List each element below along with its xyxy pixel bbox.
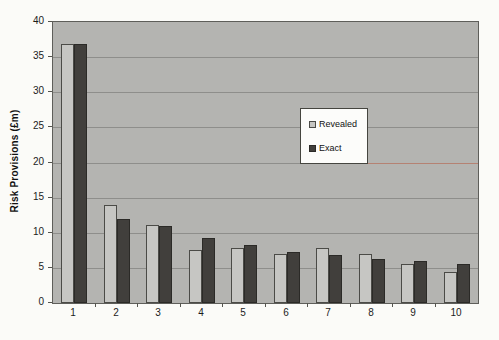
revealed-bar-6 [274,254,287,303]
exact-bar-8 [372,259,385,303]
y-tick-mark-35 [48,56,52,57]
x-tick-mark-2 [137,303,138,307]
x-tick-mark-8 [392,303,393,307]
exact-bar-4 [202,238,215,303]
legend-label-exact: Exact [319,143,342,153]
legend-item-revealed: Revealed [309,119,357,129]
x-tick-label-6: 6 [271,307,301,318]
y-tick-mark-10 [48,232,52,233]
x-tick-label-2: 2 [101,307,131,318]
y-tick-mark-0 [48,302,52,303]
x-tick-label-9: 9 [398,307,428,318]
x-tick-mark-9 [435,303,436,307]
revealed-bar-4 [189,250,202,303]
y-tick-label-20: 20 [0,156,44,168]
gridline-30 [53,92,478,93]
gridline-35 [53,57,478,58]
x-tick-label-7: 7 [313,307,343,318]
x-tick-label-5: 5 [228,307,258,318]
y-tick-mark-15 [48,197,52,198]
x-tick-label-1: 1 [58,307,88,318]
legend-item-exact: Exact [309,143,342,153]
exact-bar-6 [287,252,300,303]
artifact-red-gridline [367,163,478,164]
revealed-bar-10 [444,272,457,303]
revealed-bar-5 [231,248,244,303]
x-tick-mark-4 [222,303,223,307]
exact-bar-10 [457,264,470,303]
exact-series-marker-icon [309,145,316,152]
gridline-25 [53,127,478,128]
x-tick-label-4: 4 [186,307,216,318]
y-tick-label-10: 10 [0,226,44,238]
revealed-bar-9 [401,264,414,303]
x-tick-label-10: 10 [441,307,471,318]
x-tick-mark-7 [350,303,351,307]
y-tick-label-30: 30 [0,85,44,97]
revealed-bar-7 [316,248,329,303]
y-tick-label-0: 0 [0,296,44,308]
x-tick-mark-6 [307,303,308,307]
exact-bar-7 [329,255,342,303]
x-tick-mark-3 [180,303,181,307]
risk-provisions-chart: Risk Provisions (£m) Revealed Exact 0510… [0,0,499,340]
x-tick-label-3: 3 [143,307,173,318]
y-tick-mark-25 [48,126,52,127]
exact-bar-9 [414,261,427,303]
y-tick-label-5: 5 [0,261,44,273]
y-tick-label-25: 25 [0,120,44,132]
y-tick-label-40: 40 [0,15,44,27]
legend: Revealed Exact [300,108,368,164]
exact-bar-2 [117,219,130,303]
x-tick-mark-1 [95,303,96,307]
exact-bar-3 [159,226,172,303]
x-tick-label-8: 8 [356,307,386,318]
revealed-bar-2 [104,205,117,303]
plot-area [52,21,479,304]
revealed-bar-3 [146,225,159,303]
exact-bar-5 [244,245,257,303]
y-tick-mark-5 [48,267,52,268]
y-tick-mark-20 [48,162,52,163]
y-tick-mark-30 [48,91,52,92]
gridline-15 [53,198,478,199]
x-tick-mark-5 [265,303,266,307]
revealed-bar-1 [61,44,74,303]
exact-bar-1 [74,44,87,303]
legend-label-revealed: Revealed [319,119,357,129]
y-tick-mark-40 [48,21,52,22]
y-tick-label-35: 35 [0,50,44,62]
revealed-bar-8 [359,254,372,303]
y-tick-label-15: 15 [0,191,44,203]
revealed-series-marker-icon [309,121,316,128]
